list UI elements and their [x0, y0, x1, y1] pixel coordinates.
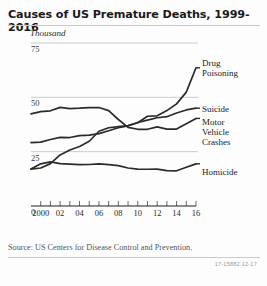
data-series-lines — [31, 68, 200, 171]
series-label-suicide: Suicide — [202, 104, 229, 114]
y-axis-tick-label: 25 — [31, 153, 40, 163]
series-label-motor-vehicle-crashes: Motor Vehicle Crashes — [202, 117, 231, 147]
source-note: Source: US Centers for Disease Control a… — [8, 243, 260, 252]
series-line-motor-vehicle-crashes — [31, 107, 196, 129]
x-axis-ticks — [41, 201, 196, 206]
chart-figure: Causes of US Premature Deaths, 1999-2016… — [0, 0, 267, 286]
x-axis-tick-label: 16 — [183, 208, 209, 218]
series-label-homicide: Homicide — [202, 167, 238, 177]
footer-divider — [8, 257, 260, 258]
series-line-homicide — [31, 162, 196, 171]
y-axis-tick-label: 50 — [31, 98, 40, 108]
series-line-suicide — [31, 108, 196, 142]
series-label-drug-poisoning: Drug Poisoning — [202, 58, 238, 78]
figure-code: 17-15882 12-17 — [215, 261, 257, 267]
series-line-drug-poisoning — [31, 68, 196, 169]
gridlines — [31, 43, 198, 152]
y-axis-tick-label: 75 — [31, 44, 40, 54]
